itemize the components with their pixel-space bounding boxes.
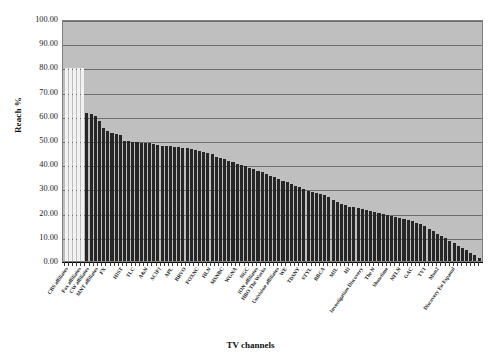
bar xyxy=(131,142,134,261)
bar xyxy=(444,238,447,261)
x-category-label: Discovery En Espanol xyxy=(422,266,456,311)
x-category-label: APL xyxy=(163,266,174,278)
x-category-label: BBCA xyxy=(312,266,326,282)
bar xyxy=(473,255,476,261)
bar xyxy=(394,217,397,261)
bar xyxy=(186,148,189,261)
bar xyxy=(240,165,243,261)
bar xyxy=(69,68,72,261)
x-category-label: HI xyxy=(343,266,352,275)
bar xyxy=(407,220,410,261)
x-category-label: A&N xyxy=(137,266,149,280)
bar xyxy=(344,205,347,261)
bar xyxy=(319,194,322,261)
bar xyxy=(206,153,209,261)
bar xyxy=(294,186,297,261)
bar xyxy=(202,152,205,261)
bar xyxy=(398,218,401,261)
bar xyxy=(140,143,143,261)
bar xyxy=(223,159,226,261)
y-tick-label: 40.00 xyxy=(12,161,58,169)
bar xyxy=(65,68,68,261)
x-category-label: Mun2 xyxy=(427,266,440,281)
bar xyxy=(286,182,289,261)
bar xyxy=(265,174,268,261)
bar xyxy=(369,211,372,261)
bar xyxy=(340,204,343,261)
x-category-label: HLN xyxy=(201,266,213,279)
bar xyxy=(231,162,234,261)
bar xyxy=(81,68,84,261)
bar xyxy=(102,128,105,261)
bar xyxy=(123,141,126,261)
bar xyxy=(144,143,147,261)
bar xyxy=(298,187,301,261)
bar xyxy=(148,143,151,261)
bar xyxy=(219,158,222,261)
x-category-label: TLC xyxy=(125,266,136,279)
plot-area xyxy=(62,20,483,262)
bar xyxy=(423,226,426,261)
bar xyxy=(169,146,172,261)
y-tick-label: 100.00 xyxy=(12,16,58,24)
bar xyxy=(152,144,155,261)
bar xyxy=(373,212,376,261)
bar xyxy=(190,149,193,261)
y-tick-label: 20.00 xyxy=(12,210,58,218)
bar xyxy=(215,157,218,261)
bar xyxy=(307,191,310,261)
bar xyxy=(377,213,380,261)
bar xyxy=(357,208,360,261)
x-category-label: NFLN xyxy=(388,266,401,281)
x-category-label: WE xyxy=(278,266,288,277)
bar xyxy=(73,68,76,261)
bar xyxy=(332,200,335,261)
bar xyxy=(302,189,305,261)
bar xyxy=(411,221,414,261)
bar xyxy=(244,166,247,261)
bar xyxy=(77,68,80,261)
x-category-label: HIST xyxy=(111,266,123,280)
bar xyxy=(402,219,405,261)
bar xyxy=(165,146,168,261)
bar xyxy=(323,195,326,261)
x-category-label: TV1 xyxy=(416,266,427,278)
bar xyxy=(256,171,259,261)
bar xyxy=(98,121,101,261)
x-category-label: STYL xyxy=(300,266,313,281)
bar xyxy=(453,243,456,261)
bar xyxy=(428,229,431,261)
bar xyxy=(311,192,314,261)
bar xyxy=(127,141,130,261)
bar xyxy=(161,146,164,261)
bar xyxy=(236,164,239,261)
bar xyxy=(261,172,264,261)
bar xyxy=(135,142,138,261)
bar xyxy=(269,176,272,261)
y-tick-label: 30.00 xyxy=(12,185,58,193)
bar xyxy=(457,246,460,261)
x-category-label: FX xyxy=(98,266,107,275)
bar xyxy=(227,161,230,261)
bar xyxy=(277,179,280,261)
y-tick-label: 70.00 xyxy=(12,89,58,97)
bar xyxy=(465,250,468,261)
bar xyxy=(365,210,368,261)
bar xyxy=(415,223,418,261)
bar xyxy=(315,193,318,261)
x-axis-category-labels: CBS affiliatesFox affiliatesCW affiliate… xyxy=(62,266,483,346)
bar xyxy=(110,133,113,261)
bar xyxy=(436,234,439,261)
y-tick-label: 60.00 xyxy=(12,113,58,121)
bar xyxy=(461,248,464,261)
y-axis-tick-labels: 100.0090.0080.0070.0060.0050.0040.0030.0… xyxy=(12,0,58,361)
bar xyxy=(382,214,385,261)
bar xyxy=(432,231,435,261)
y-tick-label: 10.00 xyxy=(12,234,58,242)
bar xyxy=(173,147,176,261)
y-tick-label: 0.00 xyxy=(12,258,58,266)
bar xyxy=(390,216,393,261)
bar xyxy=(273,177,276,261)
bar xyxy=(336,202,339,261)
bar xyxy=(198,151,201,261)
